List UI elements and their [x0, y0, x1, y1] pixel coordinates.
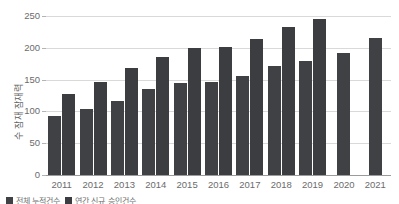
legend-item[interactable]: 연간 신규 승인건수: [65, 196, 135, 204]
bar: [282, 27, 295, 175]
plot-area: [46, 16, 391, 175]
bar: [337, 53, 350, 175]
bar: [205, 82, 218, 175]
y-tick-mark: [42, 111, 46, 112]
legend-swatch: [65, 197, 72, 204]
y-tick-label: 150: [0, 75, 40, 85]
bar: [369, 38, 382, 175]
y-tick-label: 250: [0, 11, 40, 21]
bar: [188, 48, 201, 175]
bar: [299, 61, 312, 175]
legend-label: 전체 누적건수: [16, 196, 60, 204]
clipped-title-strip: [0, 0, 399, 5]
y-tick-label: 100: [0, 106, 40, 116]
bar: [48, 116, 61, 175]
y-tick-mark: [42, 175, 46, 176]
bar: [268, 66, 281, 175]
bar: [313, 19, 326, 175]
bar: [236, 76, 249, 175]
clipped-legend-strip: 전체 누적건수연간 신규 승인건수: [0, 196, 399, 204]
bar: [62, 94, 75, 175]
legend-label: 연간 신규 승인건수: [75, 196, 135, 204]
bar: [125, 68, 138, 175]
bar: [94, 82, 107, 175]
x-axis-line: [46, 175, 391, 176]
bar: [174, 83, 187, 175]
gridline: [46, 16, 391, 17]
y-tick-label: 200: [0, 43, 40, 53]
bar: [80, 109, 93, 175]
x-tick-label: 2021: [355, 180, 395, 190]
legend-item[interactable]: 전체 누적건수: [6, 196, 60, 204]
legend: 전체 누적건수연간 신규 승인건수: [6, 196, 136, 204]
y-tick-mark: [42, 16, 46, 17]
y-tick-mark: [42, 80, 46, 81]
bar-chart-figure: 수 잠재 잠재력 050100150200250 201120122013201…: [0, 0, 399, 204]
y-tick-mark: [42, 48, 46, 49]
bar: [250, 39, 263, 175]
bar: [111, 101, 124, 175]
bar: [142, 89, 155, 175]
bar: [156, 57, 169, 175]
y-tick-mark: [42, 143, 46, 144]
bar: [219, 47, 232, 175]
y-tick-label: 50: [0, 138, 40, 148]
y-tick-label: 0: [0, 170, 40, 180]
legend-swatch: [6, 197, 13, 204]
